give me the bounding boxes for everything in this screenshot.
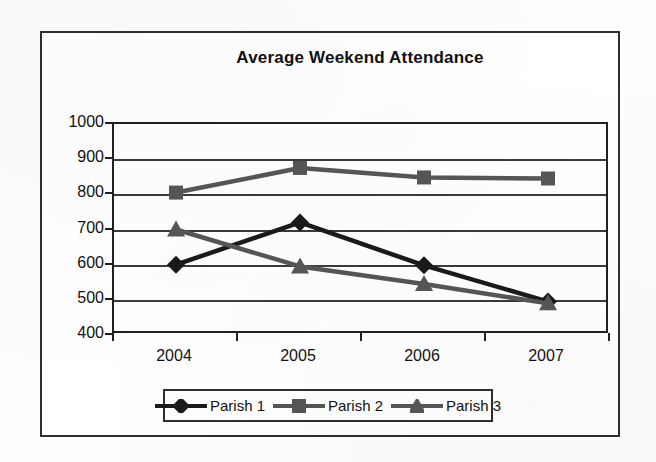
data-point-diamond — [167, 256, 185, 274]
plot-area — [112, 122, 608, 333]
y-axis-tick-label: 900 — [34, 148, 104, 166]
data-point-square — [292, 399, 306, 413]
chart-legend: Parish 1Parish 2Parish 3 — [163, 389, 493, 422]
series-line — [176, 222, 548, 301]
x-axis-tick-mark — [608, 333, 610, 341]
x-axis-tick-mark — [236, 333, 238, 341]
series-line — [176, 230, 548, 304]
series-line — [176, 168, 548, 193]
legend-marker-diamond-icon — [174, 399, 188, 413]
y-axis-tick-label: 500 — [34, 289, 104, 307]
legend-label: Parish 3 — [446, 397, 501, 414]
series-parish-2 — [169, 161, 555, 200]
x-axis-tick-mark — [360, 333, 362, 341]
data-point-square — [541, 172, 555, 186]
legend-marker-square-icon — [292, 399, 306, 413]
legend-key-diamond-icon — [155, 399, 207, 413]
y-axis-tick-label: 700 — [34, 219, 104, 237]
y-axis-tick-label: 800 — [34, 183, 104, 201]
legend-key-triangle-icon — [391, 399, 443, 413]
legend-entry-parish-1[interactable]: Parish 1 — [151, 397, 269, 414]
legend-entry-parish-2[interactable]: Parish 2 — [269, 397, 387, 414]
legend-label: Parish 2 — [328, 397, 383, 414]
x-axis-tick-mark — [484, 333, 486, 341]
data-point-diamond — [291, 213, 309, 231]
x-axis-tick-label: 2006 — [404, 347, 440, 365]
series-parish-3 — [167, 221, 557, 311]
data-point-diamond — [174, 399, 188, 413]
x-axis-tick-mark — [112, 333, 114, 341]
y-axis-tick-label: 400 — [34, 324, 104, 342]
y-axis-tick-label: 1000 — [34, 113, 104, 131]
legend-label: Parish 1 — [210, 397, 265, 414]
x-axis-tick-label: 2007 — [528, 347, 564, 365]
data-point-diamond — [415, 256, 433, 274]
y-axis-tick-label: 600 — [34, 254, 104, 272]
legend-marker-triangle-icon — [410, 399, 424, 413]
chart-title: Average Weekend Attendance — [112, 48, 608, 68]
legend-entry-parish-3[interactable]: Parish 3 — [387, 397, 505, 414]
legend-key-square-icon — [273, 399, 325, 413]
chart-container: Average Weekend Attendance 1000900800700… — [0, 0, 656, 462]
data-point-triangle — [167, 221, 185, 237]
data-point-square — [293, 161, 307, 175]
x-axis-tick-label: 2005 — [280, 347, 316, 365]
series-layer — [114, 124, 610, 335]
x-axis-tick-label: 2004 — [156, 347, 192, 365]
data-point-square — [417, 170, 431, 184]
data-point-square — [169, 186, 183, 200]
data-point-triangle — [410, 399, 424, 413]
